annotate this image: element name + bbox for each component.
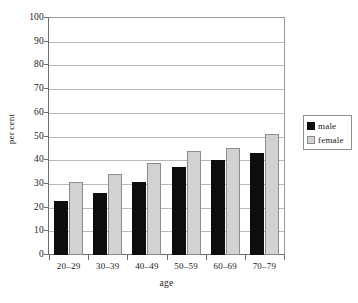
bar-female [187, 151, 201, 255]
x-axis-tick-mark [167, 255, 168, 260]
y-axis-tick-mark [44, 17, 48, 18]
x-axis-tick-mark [49, 255, 50, 260]
x-axis-tick-mark [206, 255, 207, 260]
y-axis-tick-mark [44, 88, 48, 89]
bar-male [211, 160, 225, 255]
y-axis-tick-label: 20 [18, 202, 44, 212]
bar-group [245, 18, 284, 255]
x-axis-label: age [48, 278, 285, 288]
bar-female [147, 163, 161, 255]
bar-male [93, 193, 107, 255]
y-axis-tick-mark [44, 64, 48, 65]
x-axis-tick-mark [284, 255, 285, 260]
x-axis-tick-label: 40–49 [125, 261, 169, 271]
bar-male [172, 167, 186, 255]
bar-group [167, 18, 206, 255]
y-axis-tick-mark [44, 112, 48, 113]
y-axis-tick-label: 40 [18, 154, 44, 164]
x-axis-tick-label: 30–39 [86, 261, 130, 271]
y-axis-tick-label: 90 [18, 36, 44, 46]
bar-group [49, 18, 88, 255]
legend-item-male: male [307, 119, 351, 133]
bar-female [265, 134, 279, 255]
y-axis-tick-label: 80 [18, 59, 44, 69]
y-axis-tick-label: 50 [18, 131, 44, 141]
x-axis-tick-label: 20–29 [47, 261, 91, 271]
y-axis-label: per cent [6, 99, 16, 159]
bar-group [206, 18, 245, 255]
y-axis-tick-label: 60 [18, 107, 44, 117]
bar-chart: per cent 1009080706050403020100 age male… [0, 0, 358, 303]
y-axis-tick-label: 30 [18, 178, 44, 188]
x-axis-tick-mark [88, 255, 89, 260]
y-axis-tick-label: 70 [18, 83, 44, 93]
x-axis-tick-mark [127, 255, 128, 260]
bar-group [127, 18, 166, 255]
y-axis-tick-mark [44, 136, 48, 137]
legend-swatch-female-icon [307, 136, 315, 144]
legend-label-male: male [318, 122, 336, 131]
legend: male female [303, 115, 352, 150]
y-axis-tick-mark [44, 183, 48, 184]
x-axis-tick-label: 70–79 [242, 261, 286, 271]
bar-male [250, 153, 264, 255]
bar-female [108, 174, 122, 255]
bar-female [69, 182, 83, 255]
bar-male [54, 201, 68, 256]
y-axis-tick-label: 100 [18, 12, 44, 22]
y-axis-tick-mark [44, 41, 48, 42]
y-axis-tick-mark [44, 159, 48, 160]
x-axis-tick-label: 60–69 [203, 261, 247, 271]
bars-layer [49, 18, 284, 255]
x-axis-tick-mark [245, 255, 246, 260]
y-axis-tick-labels: 1009080706050403020100 [16, 17, 44, 255]
bar-male [132, 182, 146, 255]
y-axis-tick-label: 0 [18, 249, 44, 259]
x-axis-tick-label: 50–59 [164, 261, 208, 271]
y-axis-tick-mark [44, 254, 48, 255]
bar-female [226, 148, 240, 255]
bar-group [88, 18, 127, 255]
y-axis-tick-mark [44, 207, 48, 208]
legend-swatch-male-icon [307, 122, 315, 130]
legend-label-female: female [318, 136, 344, 145]
legend-item-female: female [307, 133, 351, 147]
y-axis-tick-label: 10 [18, 225, 44, 235]
y-axis-tick-mark [44, 230, 48, 231]
